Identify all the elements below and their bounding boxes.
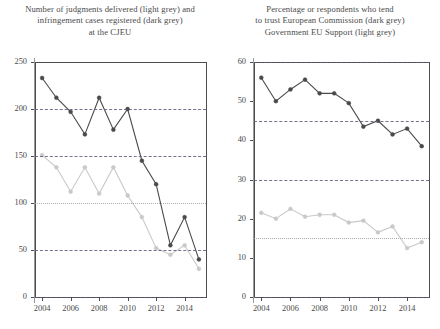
data-point (69, 110, 73, 114)
data-point (197, 258, 201, 262)
data-point (361, 219, 365, 223)
x-axis-tick (42, 297, 43, 301)
x-axis-tick (185, 297, 186, 301)
data-point (274, 99, 278, 103)
x-axis-tick (71, 297, 72, 301)
x-axis-tick (407, 297, 408, 301)
y-axis-label: 200 (1, 105, 27, 113)
y-axis-label: 0 (220, 293, 246, 301)
data-point (54, 165, 58, 169)
x-axis-tick (261, 297, 262, 301)
y-axis-label: 40 (220, 136, 246, 144)
y-axis-label: 50 (1, 246, 27, 254)
data-point (97, 192, 101, 196)
series-line (42, 155, 199, 269)
x-axis-tick (99, 297, 100, 301)
x-axis-tick (320, 297, 321, 301)
data-point (391, 133, 395, 137)
y-axis-label: 50 (220, 97, 246, 105)
data-point (197, 267, 201, 271)
data-point (40, 76, 44, 80)
x-axis-label: 2014 (393, 305, 421, 313)
x-axis-tick (349, 297, 350, 301)
data-point (154, 182, 158, 186)
plot-area-cjeu: 050100150200250200420062008201020122014 (0, 0, 220, 329)
x-axis-tick (128, 297, 129, 301)
series-line (261, 78, 421, 147)
data-point (318, 91, 322, 95)
gridline (35, 203, 206, 204)
data-point (97, 96, 101, 100)
y-axis-spine (253, 58, 254, 303)
y-axis-label: 30 (220, 176, 246, 184)
y-axis-label: 10 (220, 254, 246, 262)
y-axis-label: 150 (1, 152, 27, 160)
data-point (183, 243, 187, 247)
dual-chart-figure: Number of judgments delivered (light gre… (0, 0, 440, 329)
data-point (332, 91, 336, 95)
data-point (83, 132, 87, 136)
gridline (35, 250, 206, 251)
y-axis-label: 250 (1, 58, 27, 66)
gridline (254, 297, 429, 298)
series-canvas-cjeu (0, 0, 220, 329)
chart-panel-cjeu: Number of judgments delivered (light gre… (0, 0, 220, 329)
series-line (261, 209, 421, 248)
y-axis-label: 20 (220, 215, 246, 223)
y-axis-label: 100 (1, 199, 27, 207)
data-point (361, 125, 365, 129)
data-point (140, 159, 144, 163)
data-point (405, 127, 409, 131)
data-point (289, 207, 293, 211)
data-point (168, 253, 172, 257)
data-point (126, 194, 130, 198)
data-point (318, 213, 322, 217)
gridline (35, 156, 206, 157)
x-axis-label: 2004 (28, 305, 56, 313)
data-point (405, 246, 409, 250)
data-point (303, 215, 307, 219)
data-point (376, 230, 380, 234)
x-axis-label: 2008 (306, 305, 334, 313)
y-axis-label: 60 (220, 58, 246, 66)
series-line (42, 78, 199, 259)
data-point (183, 215, 187, 219)
y-axis-spine (34, 58, 35, 303)
data-point (303, 78, 307, 82)
chart-panel-trust: Percentage or respondents who tend to tr… (220, 0, 440, 329)
data-point (111, 165, 115, 169)
gridline (254, 62, 429, 63)
x-axis-label: 2014 (171, 305, 199, 313)
x-axis-label: 2010 (335, 305, 363, 313)
data-point (274, 217, 278, 221)
data-point (259, 211, 263, 215)
y-axis-label: 0 (1, 293, 27, 301)
data-point (347, 101, 351, 105)
data-point (420, 144, 424, 148)
x-axis-tick (290, 297, 291, 301)
x-axis-label: 2012 (364, 305, 392, 313)
data-point (391, 225, 395, 229)
x-axis-tick (378, 297, 379, 301)
data-point (289, 88, 293, 92)
gridline (35, 109, 206, 110)
x-axis-label: 2006 (276, 305, 304, 313)
data-point (111, 128, 115, 132)
gridline (254, 121, 429, 122)
data-point (83, 165, 87, 169)
x-axis-label: 2012 (142, 305, 170, 313)
data-point (69, 190, 73, 194)
data-point (168, 243, 172, 247)
data-point (347, 221, 351, 225)
data-point (332, 213, 336, 217)
gridline (254, 180, 429, 181)
data-point (54, 96, 58, 100)
x-axis-tick (156, 297, 157, 301)
data-point (420, 240, 424, 244)
x-axis-label: 2006 (57, 305, 85, 313)
gridline (254, 238, 429, 239)
gridline (35, 297, 206, 298)
plot-area-trust: 0102030405060200420062008201020122014 (220, 0, 440, 329)
data-point (259, 76, 263, 80)
x-axis-label: 2010 (114, 305, 142, 313)
